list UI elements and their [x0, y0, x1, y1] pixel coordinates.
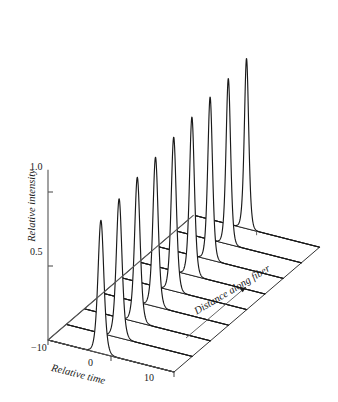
- pulse-traces: [48, 59, 320, 372]
- x-axis-tick-minus10: −10: [31, 342, 47, 353]
- y-axis-tick-0.5: 0.5: [30, 246, 43, 257]
- x-axis-tick-10: 10: [144, 372, 154, 383]
- y-axis-tick-1.0: 1.0: [30, 161, 43, 172]
- figure-canvas: Relative intensity 1.0 0.5 −10 0 10 Rela…: [0, 0, 338, 402]
- x-axis-tick-0: 0: [88, 357, 93, 368]
- waterfall-plot-svg: [0, 0, 338, 402]
